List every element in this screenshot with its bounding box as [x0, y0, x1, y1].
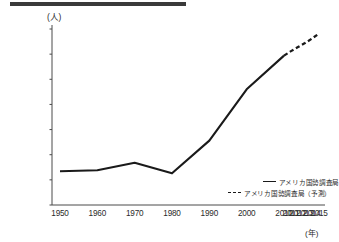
chart-legend: アメリカ国勢調査局 アメリカ国勢調査局（予測）	[236, 176, 339, 198]
legend-label-actual: アメリカ国勢調査局	[279, 177, 339, 187]
series-line-actual	[60, 56, 284, 174]
legend-item-actual: アメリカ国勢調査局	[236, 176, 339, 187]
legend-label-forecast: アメリカ国勢調査局（予測）	[244, 188, 331, 198]
dashed-line-swatch-icon	[228, 192, 241, 193]
legend-item-forecast: アメリカ国勢調査局（予測）	[228, 187, 331, 198]
series-line-forecast	[284, 34, 319, 56]
solid-line-swatch-icon	[263, 181, 276, 182]
